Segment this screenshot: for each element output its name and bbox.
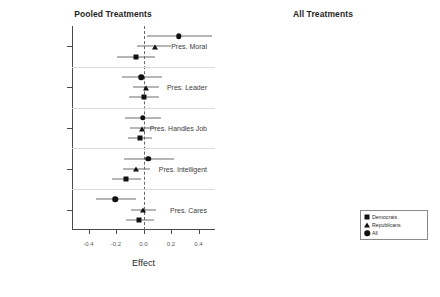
circle-marker-icon	[363, 229, 371, 237]
x-axis-label-left: Effect	[72, 258, 215, 268]
legend-label-republicans: Republicans	[372, 221, 401, 229]
legend-label-democrats: Democrats	[372, 213, 397, 221]
x-tick-label-left-2: 0.0	[139, 241, 147, 247]
legend-label-all: All	[372, 229, 378, 237]
data-point-left-0-2	[133, 54, 138, 59]
x-tick-left-2	[144, 230, 145, 234]
legend-item-all: All	[363, 229, 424, 237]
plot-area-left: -0.4-0.20.00.20.4Pres. MoralPres. Leader…	[72, 26, 215, 230]
x-tick-label-left-3: 0.2	[167, 241, 175, 247]
y-tick-label-left-0: Pres. Moral	[171, 43, 207, 50]
data-point-left-3-2	[124, 177, 129, 182]
y-tick-left-0	[67, 46, 72, 47]
legend: DemocratsRepublicansAll	[360, 210, 428, 240]
y-tick-left-4	[67, 210, 72, 211]
y-tick-label-left-2: Pres. Handles Job	[150, 125, 207, 132]
group-separator-left-2	[72, 108, 215, 109]
data-point-left-3-1	[133, 167, 139, 172]
x-tick-left-4	[199, 230, 200, 234]
x-tick-left-1	[116, 230, 117, 234]
y-tick-label-left-1: Pres. Leader	[167, 84, 207, 91]
data-point-left-2-2	[138, 136, 143, 141]
data-point-left-4-2	[137, 217, 142, 222]
data-point-left-2-1	[139, 126, 145, 131]
panel-all-treatments: All Treatments -0.6-0.4-0.20.00.2Health …	[228, 0, 440, 297]
group-separator-left-4	[72, 189, 215, 190]
data-point-left-4-0	[113, 197, 119, 203]
y-tick-left-1	[67, 87, 72, 88]
y-tick-label-left-3: Pres. Intelligent	[159, 165, 207, 172]
x-tick-label-left-1: -0.2	[111, 241, 121, 247]
group-separator-left-3	[72, 148, 215, 149]
x-tick-left-0	[89, 230, 90, 234]
data-point-left-1-0	[139, 74, 145, 80]
y-tick-left-3	[67, 169, 72, 170]
data-point-left-1-2	[142, 95, 147, 100]
data-point-left-1-1	[143, 85, 149, 90]
square-marker-icon	[363, 213, 371, 221]
data-point-left-0-1	[152, 44, 158, 49]
y-tick-label-left-4: Pres. Cares	[170, 206, 207, 213]
data-point-left-0-0	[176, 33, 182, 39]
coefficient-plot-figure: Pooled Treatments -0.4-0.20.00.20.4Pres.…	[0, 0, 440, 297]
y-axis-line-left	[72, 26, 73, 230]
x-tick-left-3	[171, 230, 172, 234]
panel-title-left: Pooled Treatments	[18, 9, 208, 19]
panel-pooled-treatments: Pooled Treatments -0.4-0.20.00.20.4Pres.…	[0, 0, 228, 297]
legend-item-republicans: Republicans	[363, 221, 424, 229]
group-separator-left-1	[72, 67, 215, 68]
panel-title-right: All Treatments	[238, 9, 408, 19]
x-tick-label-left-4: 0.4	[194, 241, 202, 247]
data-point-left-4-1	[140, 208, 146, 213]
y-tick-left-2	[67, 128, 72, 129]
x-tick-label-left-0: -0.4	[83, 241, 93, 247]
data-point-left-3-0	[146, 156, 152, 162]
data-point-left-2-0	[140, 115, 146, 121]
legend-item-democrats: Democrats	[363, 213, 424, 221]
triangle-marker-icon	[363, 221, 371, 229]
